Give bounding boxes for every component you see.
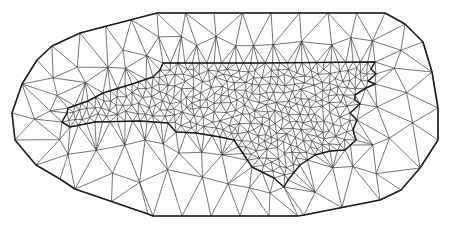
mesh-edge (228, 184, 240, 216)
mesh-edge (311, 121, 317, 123)
mesh-edge (333, 151, 338, 168)
mesh-edge (297, 99, 301, 104)
mesh-edge (271, 133, 276, 137)
mesh-edge (254, 46, 266, 63)
mesh-edge (216, 36, 236, 45)
mesh-edge (165, 115, 174, 116)
mesh-edge (132, 89, 138, 93)
mesh-edge (132, 84, 138, 89)
mesh-edge (401, 24, 405, 50)
mesh-edge (176, 126, 181, 132)
mesh-edge (168, 115, 175, 123)
mesh-edge (347, 130, 353, 132)
mesh-edge (133, 121, 146, 140)
mesh-edge (270, 84, 274, 93)
mesh-edge (287, 128, 293, 134)
mesh-edge (52, 46, 77, 67)
mesh-edge (316, 95, 323, 100)
mesh-edge (297, 63, 302, 73)
mesh-edge (110, 101, 111, 111)
mesh-edge (214, 112, 226, 113)
mesh-edge (317, 121, 324, 122)
mesh-edge (74, 112, 76, 119)
mesh-edge (181, 13, 185, 37)
mesh-edge (274, 92, 284, 93)
mesh-edge (110, 122, 125, 145)
mesh-edge (133, 114, 139, 121)
mesh-edge (249, 111, 255, 114)
mesh-edge (284, 86, 285, 93)
mesh-edge (337, 87, 338, 95)
mesh-edge (351, 13, 357, 38)
mesh-edge (234, 83, 235, 90)
mesh-edge (208, 70, 209, 81)
mesh-edge (328, 13, 332, 45)
mesh-edge (284, 70, 289, 75)
mesh-edge (331, 45, 332, 63)
mesh-edge (147, 56, 163, 63)
mesh-edge (317, 133, 323, 137)
mesh-edge (216, 128, 220, 137)
mesh-edge (360, 104, 377, 107)
mesh-edge (50, 111, 62, 122)
mesh-edge (338, 82, 343, 87)
mesh-edge (146, 89, 152, 97)
mesh-edge (278, 140, 284, 142)
mesh-edge (394, 68, 406, 93)
mesh-edge (297, 73, 305, 76)
mesh-edge (265, 63, 271, 70)
mesh-edge (242, 141, 246, 147)
mesh-edge (152, 88, 160, 92)
mesh-edge (125, 140, 145, 145)
mesh-edge (223, 126, 229, 130)
mesh-edge (216, 121, 220, 128)
mesh-edge (324, 113, 330, 121)
mesh-edge (235, 128, 238, 134)
mesh-edge (96, 150, 112, 173)
mesh-edge (220, 130, 223, 138)
mesh-edge (301, 99, 304, 106)
mesh-edge (203, 177, 229, 184)
mesh-edge (277, 133, 287, 134)
mesh-edge (340, 71, 348, 72)
mesh-edge (300, 106, 303, 115)
mesh-edge (176, 132, 179, 153)
mesh-edge (186, 97, 192, 103)
mesh-edge (81, 83, 85, 104)
mesh-edge (207, 99, 209, 107)
mesh-edge (332, 45, 339, 63)
mesh-edge (323, 91, 328, 96)
mesh-edge (295, 97, 301, 99)
mesh-edge (194, 116, 203, 118)
mesh-edge (270, 178, 274, 193)
mesh-edge (103, 116, 107, 121)
mesh-edge (262, 171, 273, 172)
mesh-edge (117, 89, 118, 97)
mesh-edge (276, 101, 288, 103)
mesh-edge (262, 165, 264, 172)
mesh-edge (146, 88, 152, 89)
mesh-edge (53, 78, 57, 96)
mesh-edge (227, 69, 239, 71)
mesh-edge (375, 84, 407, 93)
mesh-edge (277, 133, 278, 140)
mesh-edge (174, 86, 175, 98)
mesh-edge (289, 101, 297, 104)
mesh-edge (258, 136, 265, 141)
mesh-edge (323, 103, 330, 106)
mesh-edge (301, 123, 303, 130)
mesh-edge (368, 41, 373, 62)
mesh-edge (277, 77, 278, 85)
mesh-edge (239, 63, 243, 71)
mesh-edge (77, 33, 80, 67)
mesh-edge (330, 74, 331, 84)
mesh-edge (222, 63, 228, 69)
mesh-edge (265, 137, 272, 141)
mesh-edge (214, 13, 216, 36)
mesh-edge (347, 106, 350, 113)
mesh-edge (300, 115, 303, 123)
mesh-edge (310, 108, 314, 114)
mesh-edge (207, 99, 214, 103)
mesh-edge (110, 91, 117, 97)
mesh-edge (333, 168, 342, 208)
